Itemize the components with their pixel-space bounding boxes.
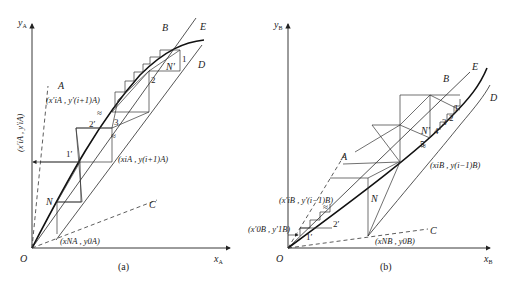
- label-c-b: C: [430, 225, 437, 236]
- stage-1-a: 1: [182, 54, 187, 64]
- caption-a: (a): [118, 261, 129, 273]
- annotation-right-pair-b: (xiB , y(i−1)B): [430, 160, 481, 170]
- stage-3-b: 3: [442, 117, 447, 127]
- y-axis-label-a: yA: [17, 17, 27, 29]
- diagram-canvas: ≈ ≈ yA xA O (a) B E D A C N N′ 1 2 3 1′ …: [0, 0, 506, 284]
- label-e-a: E: [199, 21, 206, 32]
- y-axis-label-b: yB: [273, 19, 282, 31]
- label-b-a: B: [162, 22, 168, 33]
- label-n-a: N: [45, 196, 54, 207]
- label-n-b: N: [370, 193, 379, 204]
- annotation-mid-pair-a: (xiA , y(i+1)A): [118, 154, 168, 164]
- panel-a: ≈ ≈ yA xA O (a) B E D A C N N′ 1 2 3 1′ …: [15, 17, 230, 273]
- break-mark: ≈: [111, 131, 116, 141]
- origin-label-b: O: [276, 253, 283, 264]
- break-mark: ≈: [97, 108, 102, 118]
- annotation-left-pair-a: (x′iA , y′iA): [15, 114, 25, 152]
- stage-2-b: 2: [449, 113, 454, 123]
- annotation-upper-pair-a: (x′iA , y′(i+1)A): [46, 95, 100, 105]
- stage-2p-a: 2′: [89, 119, 96, 129]
- x-axis-label-b: xB: [483, 253, 492, 265]
- label-n-prime-b: N′: [420, 125, 431, 136]
- origin-label-a: O: [20, 253, 27, 264]
- stage-2-a: 2: [151, 75, 156, 85]
- label-c-a: C: [149, 199, 156, 210]
- x-axis-label-a: xA: [213, 253, 223, 265]
- label-e-b: E: [471, 61, 478, 72]
- stage-5-b: 5: [420, 139, 425, 149]
- caption-b: (b): [380, 261, 392, 273]
- annotation-upper-left-pair-b: (x′iB , y′(i−1)B): [279, 195, 333, 205]
- stage-2p-b: 2′: [333, 219, 340, 229]
- stage-steps-upper-a: [115, 50, 180, 108]
- stage-1-b: 1: [454, 103, 459, 113]
- annotation-left-pair-b: (x′0B , y′1B): [248, 224, 290, 234]
- label-n-prime-a: N′: [165, 61, 176, 72]
- label-a-a: A: [57, 80, 65, 91]
- stage-3-a: 3: [114, 117, 119, 127]
- label-d-b: D: [489, 92, 498, 103]
- stage-4-b: 4: [434, 126, 439, 136]
- annotation-bottom-pair-a: (xNA , y0A): [60, 236, 100, 246]
- label-b-b: B: [443, 73, 449, 84]
- label-d-a: D: [197, 59, 206, 70]
- panel-b: ≈ ≈ yB xB O (b) B E D A C N N′ 1 2 3 4 5…: [248, 19, 498, 273]
- annotation-bottom-pair-b: (xNB , y0B): [375, 236, 415, 246]
- stage-1p-a: 1′: [66, 149, 73, 159]
- stage-1p-b: 1′: [306, 232, 313, 242]
- label-a-b: A: [340, 151, 348, 162]
